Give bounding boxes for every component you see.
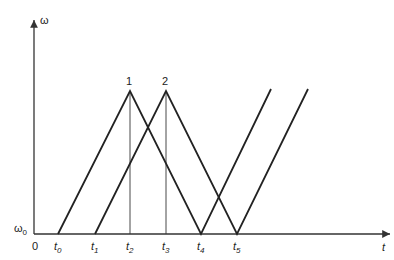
tick-t2: t2 [126,240,134,255]
tick-t0: t0 [54,240,62,255]
y-axis-label: ω [40,14,49,26]
tick-t3: t3 [162,240,170,255]
tick-t5: t5 [233,240,241,255]
series-1-line [58,89,271,234]
x-axis-label: t [382,241,386,253]
series-2-line [95,89,308,234]
tick-t4: t4 [197,240,205,255]
baseline-label: ω0 [14,222,28,237]
peak-label-1: 1 [126,75,132,87]
diagram-canvas: ω t 0 ω0 1 2 t0 t1 t2 t3 t4 t5 [0,0,394,260]
peak-label-2: 2 [162,75,168,87]
origin-label: 0 [32,240,38,252]
tick-t1: t1 [91,240,99,255]
speed-time-diagram: ω t 0 ω0 1 2 t0 t1 t2 t3 t4 t5 [0,0,394,260]
